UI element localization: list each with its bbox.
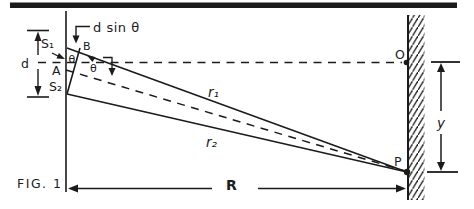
point-b-label: B [83,40,91,53]
theta-slit-label: θ [69,53,76,66]
y-dim-up-arrowhead-icon [437,63,445,72]
slit-bottom-label: S₂ [49,79,62,94]
ray-r1-line [67,48,407,172]
diagram-canvas: d d sin θ S₁ S₂ A B θ θ r₁ r₂ O P y [0,0,474,209]
slit-midpoint-label: A [52,63,61,78]
figure: d d sin θ S₁ S₂ A B θ θ r₁ r₂ O P y [0,0,474,209]
path-difference-arrowhead-icon [73,36,80,44]
screen-point-p [404,169,410,175]
theta-axis-label: θ [90,62,97,75]
screen-hatching [409,15,425,200]
theta-axis-down-arrowhead-icon [109,68,116,76]
slit-top-label: S₁ [41,36,54,51]
ray-r1-label: r₁ [208,84,219,100]
path-difference-label: d sin θ [93,20,140,35]
screen-center-label: O [395,47,405,62]
figure-caption: FIG. 1 [17,176,62,191]
a-to-p-dashed-line [66,70,405,171]
y-dim-down-arrowhead-icon [437,162,445,171]
d-dim-down-arrowhead-icon [35,86,42,96]
screen-distance-label: R [226,177,237,193]
slit-separation-label: d [21,56,29,71]
r-dim-right-arrowhead-icon [396,185,406,193]
path-difference-bracket [76,27,90,37]
theta-slit-arrowhead-icon [57,53,66,59]
fringe-displacement-label: y [436,115,446,131]
ray-r2-line [67,94,407,172]
top-rule [10,3,457,9]
r-dim-left-arrowhead-icon [68,185,78,193]
ray-r2-label: r₂ [206,134,218,150]
screen-point-label: P [394,154,402,169]
